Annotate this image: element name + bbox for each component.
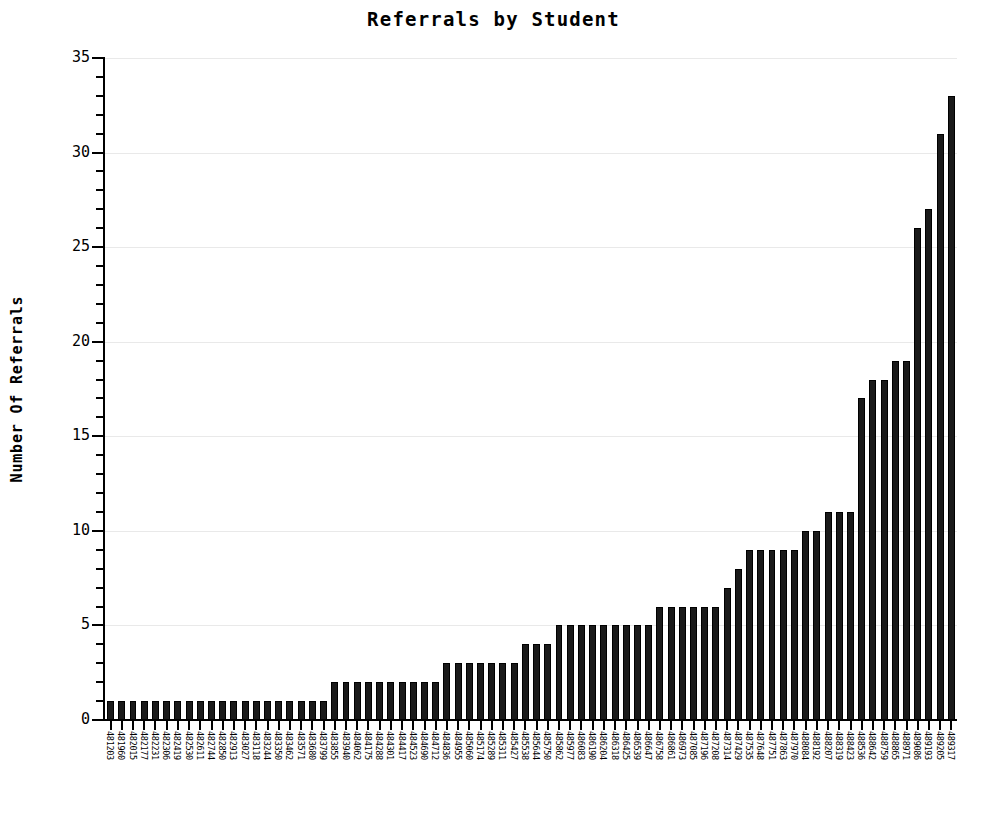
x-tick-label: 483940 [341, 731, 350, 760]
y-tick-label-wrap: 5 [0, 617, 90, 633]
x-tick [424, 721, 426, 730]
y-tick-major [92, 435, 104, 437]
y-tick-label: 10 [4, 523, 90, 538]
bar [387, 682, 394, 720]
x-tick-label: 483680 [307, 731, 316, 760]
x-tick [536, 721, 538, 730]
x-tick [468, 721, 470, 730]
bar [477, 663, 484, 720]
bar [914, 228, 921, 720]
y-tick-minor [96, 681, 104, 683]
y-tick-minor [96, 170, 104, 172]
x-tick-label: 484417 [397, 731, 406, 760]
bar [522, 644, 529, 720]
bar [836, 512, 843, 720]
x-tick [793, 721, 795, 730]
bar [802, 531, 809, 720]
y-tick-minor [96, 511, 104, 513]
bar [152, 701, 159, 720]
bar [757, 550, 764, 720]
y-tick-label: 0 [4, 712, 90, 727]
x-tick-label: 485644 [532, 731, 541, 760]
x-tick [390, 721, 392, 730]
x-tick [446, 721, 448, 730]
x-tick [334, 721, 336, 730]
y-tick-minor [96, 76, 104, 78]
x-tick [637, 721, 639, 730]
x-tick-label: 486318 [610, 731, 619, 760]
x-tick [749, 721, 751, 730]
y-tick-minor [96, 189, 104, 191]
x-tick [771, 721, 773, 730]
x-tick-label: 487208 [711, 731, 720, 760]
bar [118, 701, 125, 720]
bar [948, 96, 955, 720]
x-tick [143, 721, 145, 730]
x-tick-label: 484955 [453, 731, 462, 760]
x-tick-label: 488642 [868, 731, 877, 760]
x-tick-label: 487970 [789, 731, 798, 760]
y-tick-minor [96, 549, 104, 551]
bar [712, 607, 719, 720]
x-tick [244, 721, 246, 730]
x-tick-label: 487863 [778, 731, 787, 760]
x-tick-label: 483855 [330, 731, 339, 760]
bar [847, 512, 854, 720]
y-tick-minor [96, 454, 104, 456]
y-tick-minor [96, 284, 104, 286]
x-tick-label: 485538 [520, 731, 529, 760]
bar [309, 701, 316, 720]
bar [365, 682, 372, 720]
y-tick-label: 20 [4, 334, 90, 349]
x-tick [289, 721, 291, 730]
y-tick-major [92, 719, 104, 721]
x-tick-label: 487085 [689, 731, 698, 760]
x-tick [154, 721, 156, 730]
x-tick [110, 721, 112, 730]
x-tick [861, 721, 863, 730]
x-tick-label: 486204 [599, 731, 608, 760]
x-tick-label: 486190 [588, 731, 597, 760]
bar [130, 701, 137, 720]
gridline [105, 153, 957, 154]
x-tick-label: 483462 [285, 731, 294, 760]
y-tick-minor [96, 208, 104, 210]
x-tick-label: 484712 [431, 731, 440, 760]
x-tick-label: 485174 [476, 731, 485, 760]
x-tick [603, 721, 605, 730]
x-tick [177, 721, 179, 730]
bar [197, 701, 204, 720]
bar [107, 701, 114, 720]
x-tick [883, 721, 885, 730]
x-tick-label: 484062 [352, 731, 361, 760]
y-tick-minor [96, 416, 104, 418]
x-tick-label: 483350 [274, 731, 283, 760]
y-tick-major [92, 530, 104, 532]
bar [903, 361, 910, 720]
x-tick [850, 721, 852, 730]
x-tick [547, 721, 549, 730]
x-tick-label: 488423 [846, 731, 855, 760]
x-tick-label: 482306 [162, 731, 171, 760]
bar [769, 550, 776, 720]
bar [780, 550, 787, 720]
bar [724, 588, 731, 720]
y-tick-major [92, 152, 104, 154]
x-tick [379, 721, 381, 730]
gridline [105, 247, 957, 248]
x-tick-label: 483244 [263, 731, 272, 760]
x-tick [513, 721, 515, 730]
y-tick-major [92, 57, 104, 59]
bar [432, 682, 439, 720]
x-tick-label: 484175 [363, 731, 372, 760]
y-tick-minor [96, 700, 104, 702]
x-tick-label: 482913 [229, 731, 238, 760]
bar [466, 663, 473, 720]
bar [668, 607, 675, 720]
x-tick-label: 487648 [756, 731, 765, 760]
x-tick-label: 486083 [576, 731, 585, 760]
bar [578, 625, 585, 720]
y-tick-minor [96, 379, 104, 381]
x-tick-label: 482744 [207, 731, 216, 760]
x-tick [401, 721, 403, 730]
